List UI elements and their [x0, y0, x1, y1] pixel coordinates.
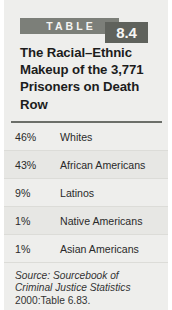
table-row: 1% Native Americans — [4, 207, 168, 235]
table-badge-number: 8.4 — [105, 22, 148, 43]
source-line-1: Source: Sourcebook of — [15, 270, 160, 283]
table-cell-percent: 1% — [15, 235, 53, 262]
table-badge: TABLE 8.4 — [4, 0, 168, 44]
table-card: TABLE 8.4 The Racial–Ethnic Makeup of th… — [4, 0, 168, 310]
table-cell-percent: 9% — [15, 179, 53, 206]
source-note: Source: Sourcebook of Criminal Justice S… — [15, 270, 160, 308]
source-line-2: Criminal Justice Statistics — [15, 282, 160, 295]
table-row: 9% Latinos — [4, 179, 168, 207]
source-line-3: 2000:Table 6.83. — [15, 295, 160, 308]
table-badge-number-box: 8.4 — [105, 22, 148, 43]
table-cell-percent: 46% — [15, 123, 53, 150]
table-row: 1% Asian Americans — [4, 235, 168, 263]
table-row: 43% African Americans — [4, 151, 168, 179]
table-cell-label: Native Americans — [60, 207, 142, 234]
table-row: 46% Whites — [4, 123, 168, 151]
table-cell-percent: 1% — [15, 207, 53, 234]
table-cell-label: Whites — [60, 123, 92, 150]
page-title: The Racial–Ethnic Makeup of the 3,771 Pr… — [20, 44, 154, 113]
table-cell-label: Asian Americans — [60, 235, 139, 262]
table-cell-percent: 43% — [15, 151, 53, 178]
table-cell-label: African Americans — [60, 151, 145, 178]
table-cell-label: Latinos — [60, 179, 94, 206]
data-table: 46% Whites 43% African Americans 9% Lati… — [4, 123, 168, 263]
